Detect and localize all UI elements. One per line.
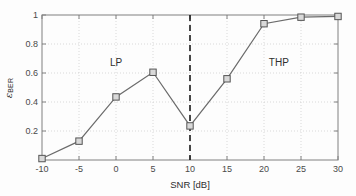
y-axis-title-base: ε <box>3 93 14 98</box>
x-tick-label: 25 <box>296 165 306 174</box>
y-tick-label: 0.8 <box>18 40 38 49</box>
x-tick-label: 0 <box>113 165 118 174</box>
x-tick-label: -5 <box>75 165 83 174</box>
region-annotation-lp: LP <box>110 58 122 68</box>
y-tick-label: 0.6 <box>18 69 38 78</box>
y-axis-title-subscript: BER <box>7 78 14 93</box>
y-axis-title: εBER <box>4 78 14 98</box>
x-tick-label: 20 <box>259 165 269 174</box>
y-tick-label: 1 <box>18 11 38 20</box>
x-tick-label: 30 <box>333 165 343 174</box>
y-tick-label: 0.2 <box>18 127 38 136</box>
x-tick-label: -10 <box>35 165 48 174</box>
x-axis-title: SNR [dB] <box>170 180 210 190</box>
x-tick-label: 10 <box>185 165 195 174</box>
x-tick-label: 5 <box>150 165 155 174</box>
x-tick-label: 15 <box>222 165 232 174</box>
chart-figure: -10-5051015202530 0.20.40.60.81 LPTHP SN… <box>0 0 356 196</box>
y-tick-label: 0.4 <box>18 98 38 107</box>
region-annotation-thp: THP <box>269 58 289 68</box>
